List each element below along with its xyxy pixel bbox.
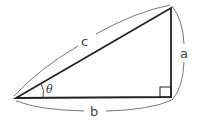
side-a-brace-top [172, 6, 184, 44]
triangle-figure: c a b θ [0, 0, 200, 126]
label-c: c [81, 34, 88, 49]
right-triangle-diagram: c a b θ [0, 0, 200, 126]
label-a: a [180, 46, 188, 61]
side-a-brace-bottom [172, 62, 184, 100]
label-b: b [90, 104, 98, 119]
label-theta: θ [46, 83, 53, 96]
side-b-brace-left [16, 101, 84, 111]
triangle [16, 8, 171, 98]
side-b-brace-right [106, 100, 172, 111]
angle-arc [41, 84, 44, 97]
right-angle-marker [160, 87, 171, 97]
